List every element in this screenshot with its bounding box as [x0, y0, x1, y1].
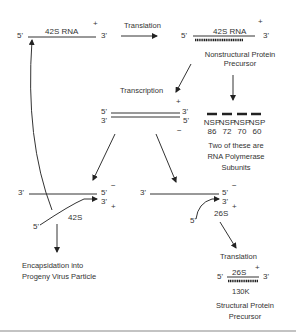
top-left-three: 3' [101, 31, 107, 40]
duplex-bottom-polarity: − [177, 126, 182, 135]
structural-size: 130K [232, 287, 250, 296]
to-right-replication-arrow [156, 134, 176, 182]
right-minus: − [232, 181, 237, 190]
top-left-polarity: + [93, 19, 98, 28]
structural-precursor: Structural Protein Precursor [205, 300, 285, 322]
left-plus: + [111, 202, 116, 211]
polymerase-note: Two of these are RNA Polymerase Subunits [196, 140, 276, 173]
left-template-five: 5' [101, 188, 107, 197]
to-translation-2-arrow [220, 222, 236, 248]
duplex-top-five: 5' [101, 107, 107, 116]
right-template-five: 5' [222, 188, 228, 197]
top-left-five: 5' [17, 31, 23, 40]
duplex-bottom-five: 5' [183, 116, 189, 125]
nonstructural-precursor: Nonstructural Protein Precursor [190, 50, 290, 68]
left-label-42s: 42S [68, 213, 82, 222]
to-left-replication-arrow [93, 134, 115, 180]
top-right-polarity: + [258, 17, 263, 26]
transcription-label: Transcription [120, 86, 163, 95]
nsp-60: NSP60 [248, 118, 266, 136]
bottom-five: 5' [217, 272, 223, 281]
bottom-polarity: + [255, 263, 260, 272]
bottom-label: 26S [232, 268, 246, 277]
top-right-five: 5' [181, 31, 187, 40]
left-template-three: 3' [18, 188, 24, 197]
return-to-top-arrow [31, 40, 52, 210]
duplex-bottom-three: 3' [101, 116, 107, 125]
translation-2-label: Translation [220, 252, 257, 261]
encapsidation-label: Encapsidation into Progeny Virus Particl… [22, 260, 96, 282]
to-transcription-arrow [176, 64, 191, 92]
right-new-five: 5' [190, 216, 196, 225]
right-plus: + [232, 202, 237, 211]
top-right-three: 3' [263, 31, 269, 40]
right-label-26s: 26S [214, 209, 228, 218]
left-new-three: 3' [101, 197, 107, 206]
right-template-three: 3' [140, 188, 146, 197]
top-right-label: 42S RNA [213, 27, 246, 36]
top-left-label: 42S RNA [45, 27, 78, 36]
left-minus: − [111, 181, 116, 190]
duplex-top-polarity: + [176, 97, 181, 106]
right-new-three: 3' [222, 197, 228, 206]
duplex-top-three: 3' [182, 107, 188, 116]
bottom-three: 3' [263, 272, 269, 281]
left-new-five: 5' [33, 222, 39, 231]
translation-1-label: Translation [124, 21, 161, 30]
